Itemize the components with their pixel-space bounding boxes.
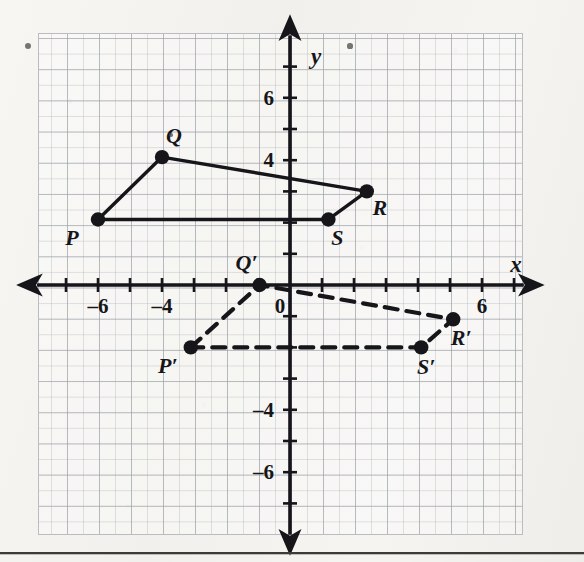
vertex-label-Q-prime: Q′: [236, 250, 258, 275]
ink-speck: [25, 43, 31, 49]
page-bottom-rule: [0, 552, 584, 555]
vertex-label-R-prime: R′: [450, 325, 472, 350]
coordinate-plane-plot: –6–4664–4–60 PQRSP′Q′R′S′ xy: [0, 0, 584, 562]
vertex-label-R: R: [371, 195, 387, 220]
x-tick-label: 6: [477, 294, 488, 318]
image-quadrilateral-PQRS-prime: [191, 285, 453, 347]
origin-label: 0: [275, 294, 286, 318]
vertex-point-S-prime: [414, 340, 428, 354]
ink-speck: [169, 133, 173, 137]
y-tick-label: –6: [252, 460, 274, 484]
y-axis-name-label: y: [308, 44, 322, 69]
worksheet-page: –6–4664–4–60 PQRSP′Q′R′S′ xy: [0, 0, 584, 562]
ink-speck: [347, 43, 352, 48]
vertex-point-Q: [155, 150, 169, 164]
x-tick-label: –4: [151, 294, 174, 318]
preimage-quadrilateral-PQRS: [98, 157, 367, 219]
vertex-label-P-prime: P′: [157, 353, 178, 378]
x-axis-name-label: x: [509, 252, 522, 277]
vertex-point-P: [91, 212, 105, 226]
vertex-label-P: P: [64, 225, 79, 250]
vertex-point-Q-prime: [252, 278, 266, 292]
vertex-point-P-prime: [184, 340, 198, 354]
x-tick-label: –6: [87, 294, 109, 318]
y-tick-label: –4: [252, 398, 275, 422]
vertex-label-S: S: [331, 225, 343, 250]
y-tick-label: 4: [264, 148, 275, 172]
y-tick-label: 6: [264, 86, 275, 110]
vertex-label-S-prime: S′: [417, 354, 435, 379]
